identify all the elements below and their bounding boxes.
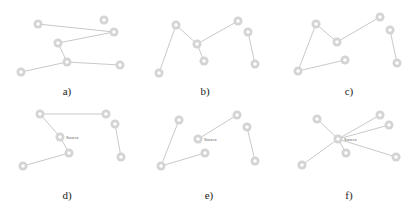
graph-edge (298, 60, 345, 71)
panel-label-e: e) (205, 189, 214, 201)
graph-node-center (394, 155, 398, 159)
graph-edge (23, 153, 69, 166)
panel-label-b: b) (200, 85, 209, 97)
graph-node-center (19, 70, 23, 74)
graph-node-center (378, 15, 382, 19)
graph-node-center (395, 61, 399, 65)
graph-node-center (315, 117, 319, 121)
graph-edge (58, 32, 114, 43)
graph-node-center (202, 59, 206, 63)
graph-node-center (67, 151, 71, 155)
graph-node-center (253, 62, 257, 66)
graph-node-center (58, 135, 62, 139)
graph-node-center (378, 113, 382, 117)
graph-node-center (387, 123, 391, 127)
graph-node-center (246, 30, 250, 34)
graph-node-center (335, 40, 339, 44)
graph-node-center (388, 28, 392, 32)
graph-edge (21, 62, 67, 72)
graph-edge (248, 32, 255, 64)
graph-edge (67, 62, 120, 65)
graph-node-center (119, 155, 123, 159)
graph-node-center (113, 122, 117, 126)
graph-node-center (196, 137, 200, 141)
graph-node-center (336, 137, 340, 141)
graph-node-center (112, 30, 116, 34)
graph-edge (298, 24, 316, 71)
graph-node-center (245, 125, 249, 129)
graph-node-center (314, 22, 318, 26)
graph-edge (115, 124, 121, 157)
graph-edge (302, 139, 338, 165)
graph-edge (337, 17, 380, 42)
graph-edge (161, 153, 205, 166)
graph-node-center (21, 164, 25, 168)
graph-node-center (253, 159, 257, 163)
panel-c (294, 13, 402, 76)
source-label-f: Source (344, 137, 357, 142)
panel-label-d: d) (62, 189, 71, 201)
graph-node-center (38, 112, 42, 116)
graph-node-center (195, 42, 199, 46)
graph-edge (247, 127, 255, 161)
graph-edge (159, 25, 176, 73)
graph-node-center (65, 60, 69, 64)
graph-node-center (36, 22, 40, 26)
panel-label-a: a) (63, 85, 72, 97)
graph-edge (338, 115, 380, 139)
panel-b (155, 17, 260, 78)
panel-a (17, 16, 125, 77)
graph-edge (161, 120, 179, 166)
source-label-e: Source (204, 137, 217, 142)
graph-node-center (177, 118, 181, 122)
panel-d (19, 110, 126, 171)
graph-edge (197, 21, 238, 44)
graph-node-center (159, 164, 163, 168)
graph-diagram (0, 0, 411, 207)
graph-node-center (102, 18, 106, 22)
graph-edge (40, 114, 60, 137)
graph-node-center (300, 163, 304, 167)
graph-node-center (203, 151, 207, 155)
panel-label-c: c) (345, 85, 354, 97)
graph-node-center (174, 23, 178, 27)
graph-node-center (118, 63, 122, 67)
graph-node-center (104, 112, 108, 116)
graph-node-center (157, 71, 161, 75)
graph-node-center (344, 151, 348, 155)
panel-label-f: f) (345, 189, 352, 201)
source-label-d: Source (66, 135, 79, 140)
graph-node-center (56, 41, 60, 45)
graph-node-center (296, 69, 300, 73)
graph-edge (38, 24, 114, 32)
graph-node-center (343, 58, 347, 62)
graph-edge (390, 30, 397, 63)
graph-node-center (235, 113, 239, 117)
graph-edge (198, 115, 237, 139)
graph-node-center (236, 19, 240, 23)
